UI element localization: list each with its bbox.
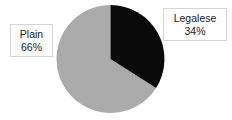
pie-label-legalese-value: 34% [168, 25, 222, 38]
pie-label-legalese[interactable]: Legalese 34% [163, 8, 227, 41]
pie-label-plain[interactable]: Plain 66% [10, 24, 53, 57]
pie-chart-figure: Plain 66% Legalese 34% [0, 0, 232, 120]
pie-label-legalese-name: Legalese [168, 12, 222, 25]
pie-label-plain-name: Plain [15, 28, 48, 41]
pie-label-plain-value: 66% [15, 41, 48, 54]
